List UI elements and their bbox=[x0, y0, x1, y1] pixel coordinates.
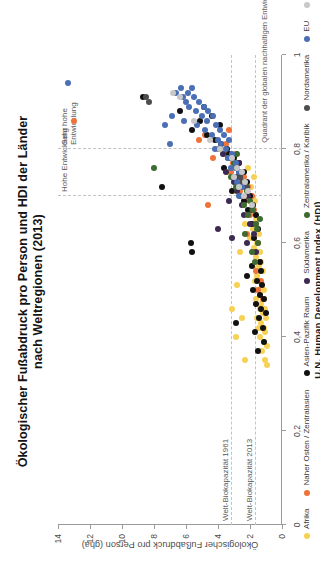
data-point bbox=[181, 118, 187, 124]
data-point bbox=[233, 320, 239, 326]
chart-legend: AfrikaNaher Osten / ZentralasienAsien-Pa… bbox=[302, 0, 311, 539]
data-point bbox=[146, 99, 152, 105]
data-point bbox=[229, 235, 235, 241]
x-tick-label: 0,8 bbox=[292, 143, 302, 155]
data-point bbox=[245, 165, 251, 171]
data-point bbox=[262, 358, 268, 364]
legend-swatch-icon bbox=[304, 371, 310, 377]
data-point bbox=[186, 104, 192, 110]
data-point bbox=[71, 118, 77, 124]
data-point bbox=[65, 80, 71, 86]
data-point bbox=[188, 240, 194, 246]
chart-title-line-1: Ökologischer Fußabdruck pro Person und H… bbox=[16, 0, 31, 583]
data-point bbox=[229, 306, 235, 312]
data-point bbox=[226, 127, 232, 133]
data-point bbox=[185, 90, 191, 96]
data-point bbox=[242, 358, 248, 364]
quadrant-annotation: Quadrant der globalen nachhaltigen Entwi… bbox=[260, 0, 269, 143]
x-tick bbox=[282, 242, 286, 243]
legend-swatch-icon bbox=[304, 490, 310, 496]
data-point bbox=[193, 108, 199, 114]
y-tick-label: 8 bbox=[149, 534, 159, 539]
data-point bbox=[239, 170, 245, 176]
y-tick bbox=[122, 525, 123, 529]
chart-title-line-2: nach Weltregionen (2013) bbox=[31, 0, 46, 583]
data-point bbox=[250, 287, 256, 293]
data-point bbox=[196, 137, 202, 143]
legend-label: Asien-Pazifik Raum bbox=[302, 297, 311, 367]
data-point bbox=[170, 90, 176, 96]
legend-item-4[interactable]: Zentralamerika / Karibik bbox=[302, 124, 311, 218]
data-point bbox=[202, 127, 208, 133]
x-tick bbox=[282, 54, 286, 55]
legend-item-5[interactable]: Nordamerika bbox=[302, 55, 311, 111]
data-point bbox=[257, 217, 263, 223]
data-point bbox=[189, 85, 195, 91]
chart-title: Ökologischer Fußabdruck pro Person und H… bbox=[16, 0, 46, 583]
x-axis-label: U.N. Human Development Index (HDI) bbox=[312, 55, 316, 525]
data-point bbox=[255, 240, 261, 246]
data-point bbox=[177, 94, 183, 100]
legend-item-7[interactable]: andere europäische Länder bbox=[302, 0, 311, 8]
x-tick-label: 0 bbox=[292, 523, 302, 528]
y-tick bbox=[218, 525, 219, 529]
legend-item-6[interactable]: EU bbox=[302, 21, 311, 42]
plot-area: Welt-Biokapazität 1961Welt-Biokapazität … bbox=[58, 55, 282, 525]
data-point bbox=[263, 311, 269, 317]
data-point bbox=[252, 329, 258, 335]
vertical-reference-line bbox=[58, 148, 282, 149]
y-tick-label: 0 bbox=[277, 534, 287, 539]
legend-label: Südamerika bbox=[302, 231, 311, 274]
data-point bbox=[207, 137, 213, 143]
data-point bbox=[249, 202, 255, 208]
data-point bbox=[255, 348, 261, 354]
data-point bbox=[254, 226, 260, 232]
data-point bbox=[241, 202, 247, 208]
legend-item-1[interactable]: Naher Osten / Zentralasien bbox=[302, 390, 311, 496]
x-tick bbox=[282, 148, 286, 149]
y-axis-label: Ökologischer Fußabdruck pro Person (gha) bbox=[40, 540, 300, 550]
y-tick bbox=[90, 525, 91, 529]
x-tick-label: 0,2 bbox=[292, 425, 302, 437]
data-point bbox=[261, 296, 267, 302]
data-point bbox=[215, 226, 221, 232]
data-point bbox=[229, 155, 235, 161]
legend-swatch-icon bbox=[304, 36, 310, 42]
legend-swatch-icon bbox=[304, 278, 310, 284]
legend-swatch-icon bbox=[304, 533, 310, 539]
x-tick bbox=[282, 430, 286, 431]
x-tick-label: 1 bbox=[292, 53, 302, 58]
data-point bbox=[244, 273, 250, 279]
data-point bbox=[259, 282, 265, 288]
legend-swatch-icon bbox=[304, 105, 310, 111]
y-axis-line bbox=[58, 524, 282, 525]
y-tick bbox=[58, 525, 59, 529]
data-point bbox=[237, 249, 243, 255]
data-point bbox=[189, 249, 195, 255]
data-point bbox=[177, 108, 183, 114]
data-point bbox=[233, 334, 239, 340]
x-tick-label: 0,6 bbox=[292, 237, 302, 249]
data-point bbox=[151, 165, 157, 171]
data-point bbox=[204, 118, 210, 124]
legend-item-0[interactable]: Afrika bbox=[302, 509, 311, 539]
horizontal-reference-label: Welt-Biokapazität 1961 bbox=[220, 439, 229, 521]
data-point bbox=[167, 141, 173, 147]
legend-item-3[interactable]: Südamerika bbox=[302, 231, 311, 284]
data-point bbox=[241, 193, 247, 199]
rotated-figure-wrapper: Ökologischer Fußabdruck pro Person und H… bbox=[0, 0, 316, 583]
data-point bbox=[162, 123, 168, 129]
data-point bbox=[234, 282, 240, 288]
data-point bbox=[217, 146, 223, 152]
data-point bbox=[159, 184, 165, 190]
data-point bbox=[231, 174, 237, 180]
data-point bbox=[260, 325, 266, 331]
legend-item-2[interactable]: Asien-Pazifik Raum bbox=[302, 297, 311, 377]
data-point bbox=[245, 212, 251, 218]
y-tick-label: 6 bbox=[181, 534, 191, 539]
legend-label: Zentralamerika / Karibik bbox=[302, 124, 311, 208]
data-point bbox=[191, 118, 197, 124]
y-tick bbox=[186, 525, 187, 529]
y-tick bbox=[282, 525, 283, 529]
data-point bbox=[239, 315, 245, 321]
